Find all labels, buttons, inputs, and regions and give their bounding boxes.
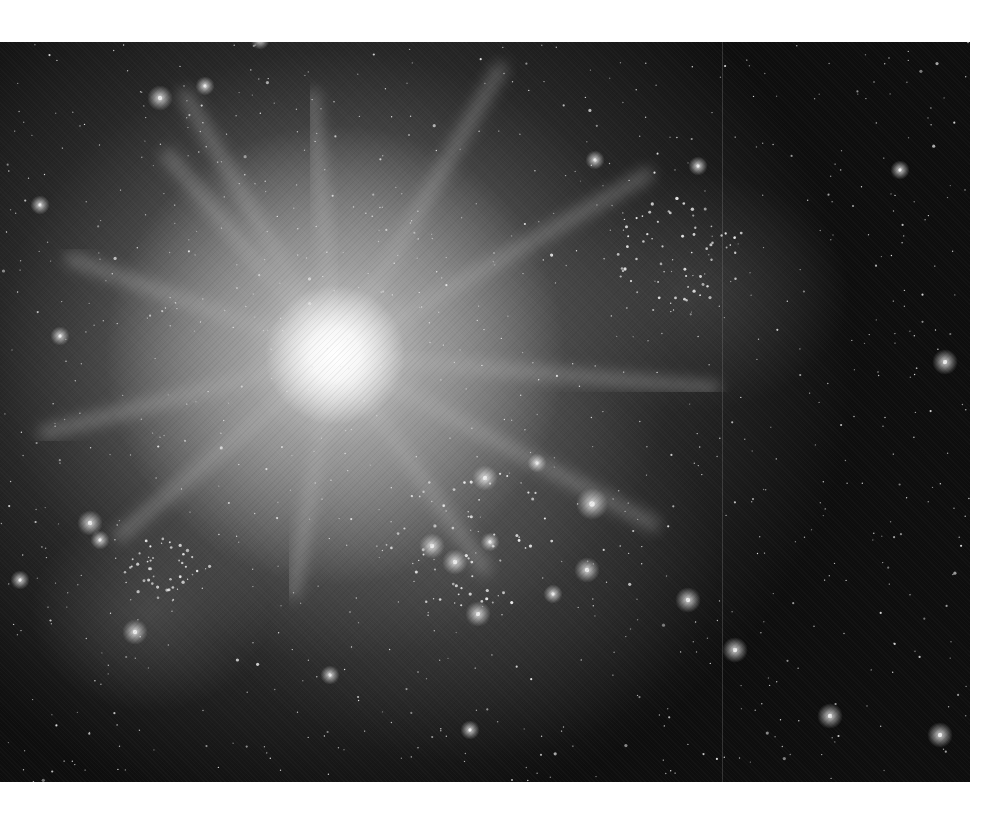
- astronomical-photo: Grayscale astronomical photograph of a b…: [0, 42, 970, 782]
- film-grain: [0, 42, 970, 782]
